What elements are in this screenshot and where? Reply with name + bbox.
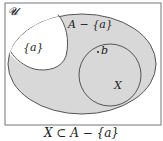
a-minus-a-label: A − {a} xyxy=(67,18,113,31)
set-x-circle xyxy=(79,44,141,106)
point-b-label: b xyxy=(101,44,108,57)
set-x-label: X xyxy=(113,79,123,92)
point-b-marker xyxy=(97,51,99,53)
venn-diagram: 𝓤 A − {a} {a} b X xyxy=(0,0,163,141)
diagram-caption: X ⊂ A − {a} xyxy=(0,126,163,141)
singleton-a-label: {a} xyxy=(23,41,44,54)
